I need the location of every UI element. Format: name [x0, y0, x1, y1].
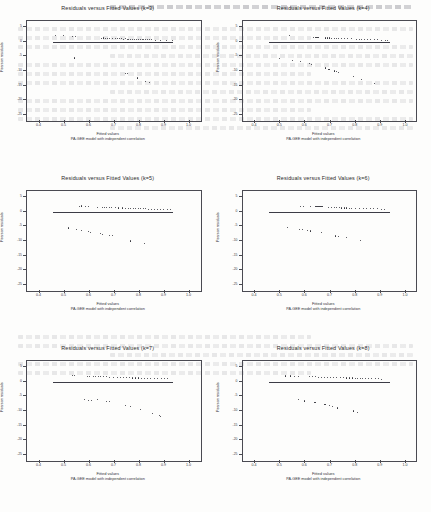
- residual-plot-panel: Residuals versus Fitted Values (k=6)Pear…: [216, 170, 431, 340]
- y-tick-label: -15: [233, 423, 238, 427]
- data-point: [279, 58, 280, 59]
- x-tick-label: 0.4: [36, 463, 41, 467]
- data-point: [368, 378, 369, 379]
- data-point: [313, 37, 314, 38]
- data-point: [375, 378, 376, 379]
- data-point: [312, 376, 313, 377]
- data-point: [321, 377, 322, 378]
- data-point: [365, 378, 366, 379]
- x-axis-title: Fitted values: [216, 131, 431, 136]
- data-point: [141, 378, 142, 379]
- y-tick-label: -25: [233, 282, 238, 286]
- data-point: [337, 407, 338, 408]
- data-point: [315, 37, 316, 38]
- plot-area: [26, 20, 202, 122]
- data-point: [360, 240, 361, 241]
- data-point: [106, 401, 107, 402]
- x-axis: 0.40.50.60.70.80.91.0: [26, 290, 202, 300]
- data-point: [149, 39, 150, 40]
- y-tick-mark: [23, 26, 26, 27]
- data-point: [340, 377, 341, 378]
- data-point: [145, 208, 146, 209]
- data-point: [377, 208, 378, 209]
- data-point: [378, 378, 379, 379]
- y-tick-label: -5: [234, 393, 237, 397]
- data-point: [377, 39, 378, 40]
- data-point: [353, 410, 354, 411]
- x-axis: 0.40.50.60.70.80.91.0: [242, 290, 418, 300]
- data-point: [289, 35, 290, 36]
- data-point: [360, 378, 361, 379]
- data-point: [149, 82, 150, 83]
- data-point: [109, 38, 110, 39]
- y-tick-label: -10: [17, 238, 22, 242]
- data-point: [111, 207, 112, 208]
- y-axis: 50-5-10-15-20-25: [0, 190, 26, 290]
- plot-area: [242, 360, 418, 462]
- data-point: [135, 377, 136, 378]
- panel-title: Residuals versus Fitted Values (k=7): [0, 345, 216, 351]
- x-tick-label: 0.9: [161, 463, 166, 467]
- data-point: [349, 377, 350, 378]
- x-tick-label: 0.7: [327, 463, 332, 467]
- data-point: [338, 72, 339, 73]
- data-point: [298, 376, 299, 377]
- x-tick-label: 0.6: [86, 463, 91, 467]
- y-tick-label: -15: [17, 423, 22, 427]
- data-point: [367, 39, 368, 40]
- y-tick-mark: [239, 70, 242, 71]
- data-point: [103, 37, 104, 38]
- y-tick-label: 5: [20, 24, 22, 28]
- data-point: [132, 377, 133, 378]
- plot-area: [242, 190, 418, 292]
- x-tick-label: 0.7: [327, 123, 332, 127]
- residual-plot-panel: Residuals versus Fitted Values (k=3)Pear…: [0, 0, 216, 170]
- y-tick-mark: [239, 85, 242, 86]
- data-point: [329, 37, 330, 38]
- y-tick-mark: [23, 211, 26, 212]
- data-point: [361, 79, 362, 80]
- data-point: [315, 206, 316, 207]
- y-tick-mark: [23, 425, 26, 426]
- data-point: [140, 39, 141, 40]
- x-axis-title: Fitted values: [216, 301, 431, 306]
- data-point: [327, 37, 328, 38]
- panel-title: Residuals versus Fitted Values (k=6): [216, 175, 431, 181]
- data-point: [285, 375, 286, 376]
- y-tick-mark: [23, 454, 26, 455]
- data-layer: [27, 191, 201, 291]
- data-point: [381, 209, 382, 210]
- data-point: [325, 37, 326, 38]
- x-tick-label: 0.8: [136, 293, 141, 297]
- x-tick-label: 0.5: [277, 293, 282, 297]
- data-point: [329, 405, 330, 406]
- data-point: [128, 39, 129, 40]
- x-tick-label: 1.0: [186, 123, 191, 127]
- data-point: [324, 377, 325, 378]
- panel-title: Residuals versus Fitted Values (k=3): [0, 5, 216, 11]
- plot-area: [26, 190, 202, 292]
- y-tick-mark: [23, 410, 26, 411]
- data-point: [125, 405, 126, 406]
- data-point: [106, 207, 107, 208]
- y-tick-mark: [23, 439, 26, 440]
- data-point: [126, 377, 127, 378]
- data-point: [374, 83, 375, 84]
- data-point: [294, 376, 295, 377]
- data-point: [148, 209, 149, 210]
- panel-subtitle: PA-GEE model with independent correlatio…: [0, 307, 216, 311]
- y-tick-mark: [23, 269, 26, 270]
- data-point: [154, 209, 155, 210]
- x-tick-label: 0.5: [61, 293, 66, 297]
- zero-reference-line: [53, 42, 173, 43]
- x-tick-label: 1.0: [186, 463, 191, 467]
- data-point: [109, 235, 110, 236]
- x-tick-label: 0.6: [86, 123, 91, 127]
- x-tick-label: 0.4: [252, 463, 257, 467]
- residual-plot-panel: Residuals versus Fitted Values (k=5)Pear…: [0, 170, 216, 340]
- y-axis: 50-5-10-15-20-25: [216, 190, 242, 290]
- x-tick-label: 0.8: [352, 123, 357, 127]
- data-point: [102, 207, 103, 208]
- y-axis: 50-5-10-15-20-25: [216, 360, 242, 460]
- y-tick-label: -20: [17, 97, 22, 101]
